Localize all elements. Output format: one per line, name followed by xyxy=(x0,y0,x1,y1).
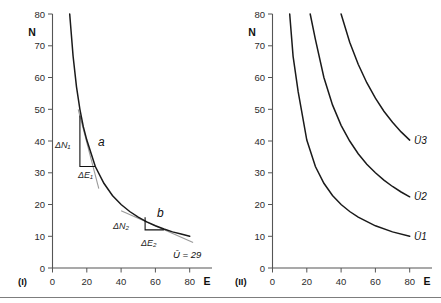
panel-one-delta-n2-label: ΔN₂ xyxy=(112,221,130,231)
panel-one-slope-label-b: b xyxy=(157,206,164,220)
panel-one-delta-n1-label: ΔN₁ xyxy=(54,140,71,150)
dual-panel-chart: 0 10 20 30 40 50 60 70 80 0 20 40 60 80 xyxy=(0,0,441,303)
panel-one-delta-e2-label: ΔE₂ xyxy=(140,238,157,248)
panel-two-y-tick-80: 80 xyxy=(254,9,265,20)
panel-one-y-tick-80: 80 xyxy=(34,9,45,20)
panel-one-y-axis-label: N xyxy=(28,26,36,38)
panel-one-x-tick-60: 60 xyxy=(150,276,161,287)
panel-two-x-tick-40: 40 xyxy=(336,276,347,287)
panel-two-label-u3: Ū3 xyxy=(414,135,427,146)
panel-two-label-u2: Ū2 xyxy=(414,191,427,202)
panel-one-x-tick-40: 40 xyxy=(116,276,127,287)
panel-two-x-tick-60: 60 xyxy=(370,276,381,287)
panel-two-x-ticks xyxy=(273,268,410,273)
figure-container: 0 10 20 30 40 50 60 70 80 0 20 40 60 80 xyxy=(0,0,441,303)
panel-two-y-tick-50: 50 xyxy=(254,104,265,115)
panel-one-y-tick-50: 50 xyxy=(34,104,45,115)
panel-two: 0 10 20 30 40 50 60 70 80 0 20 40 60 80 … xyxy=(235,9,432,288)
panel-one-y-tick-0: 0 xyxy=(40,263,45,274)
panel-one-y-ticks xyxy=(48,14,53,268)
panel-two-x-tick-80: 80 xyxy=(404,276,415,287)
panel-one-y-tick-40: 40 xyxy=(34,136,45,147)
panel-one-curve xyxy=(70,14,190,236)
panel-two-y-tick-30: 30 xyxy=(254,167,265,178)
panel-one-y-tick-10: 10 xyxy=(34,231,45,242)
panel-one-x-ticks xyxy=(53,268,190,273)
panel-one-delta-e1-label: ΔE₁ xyxy=(77,170,93,180)
panel-two-y-ticks xyxy=(268,14,273,268)
panel-two-number: (II) xyxy=(235,276,247,287)
panel-two-x-axis-label: E xyxy=(423,275,430,287)
panel-two-x-tick-20: 20 xyxy=(302,276,313,287)
panel-one-y-tick-30: 30 xyxy=(34,167,45,178)
panel-two-curve-u3 xyxy=(341,14,410,140)
panel-one-y-tick-70: 70 xyxy=(34,40,45,51)
panel-two-x-tick-0: 0 xyxy=(270,276,275,287)
panel-one-utility-label: Ū = 29 xyxy=(173,249,202,260)
panel-two-curve-u2 xyxy=(310,14,410,197)
panel-one-slope-label-a: a xyxy=(98,135,105,149)
panel-two-y-tick-0: 0 xyxy=(260,263,265,274)
panel-one-x-tick-80: 80 xyxy=(184,276,195,287)
panel-two-curve-u1 xyxy=(290,14,410,236)
panel-one: 0 10 20 30 40 50 60 70 80 0 20 40 60 80 xyxy=(18,9,212,288)
panel-two-y-axis-label: N xyxy=(248,26,256,38)
panel-two-y-tick-20: 20 xyxy=(254,199,265,210)
panel-one-number: (I) xyxy=(18,276,27,287)
panel-one-y-tick-20: 20 xyxy=(34,199,45,210)
panel-two-y-tick-70: 70 xyxy=(254,40,265,51)
panel-one-x-tick-20: 20 xyxy=(82,276,93,287)
panel-two-y-tick-10: 10 xyxy=(254,231,265,242)
panel-one-y-tick-60: 60 xyxy=(34,72,45,83)
panel-two-y-tick-40: 40 xyxy=(254,136,265,147)
panel-two-y-tick-60: 60 xyxy=(254,72,265,83)
panel-one-x-tick-0: 0 xyxy=(50,276,55,287)
panel-two-label-u1: Ū1 xyxy=(414,231,427,242)
bottom-divider xyxy=(0,297,441,298)
panel-one-x-axis-label: E xyxy=(203,275,210,287)
